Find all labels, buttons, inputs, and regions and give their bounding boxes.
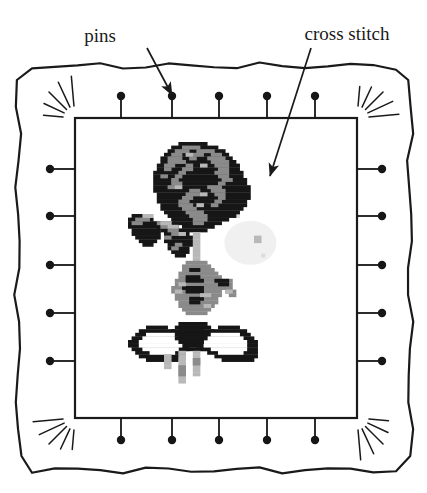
- bow-knot-stitch: [175, 336, 208, 340]
- stem-stitch: [193, 243, 201, 247]
- bow-loop-interior: [139, 344, 183, 348]
- rose-head-stitch: [178, 142, 207, 146]
- bottom-edge-pin-5-head[interactable]: [311, 436, 319, 444]
- rose-highlight-stitch: [175, 174, 183, 178]
- bottom-edge-pin-1-head[interactable]: [117, 436, 125, 444]
- bow-loop-interior: [211, 347, 247, 351]
- left-edge-pin-1-head[interactable]: [46, 165, 54, 173]
- rose-head-stitch: [160, 207, 243, 211]
- rose-highlight-stitch: [214, 164, 229, 168]
- rose-highlight-stitch: [189, 214, 207, 218]
- bow-stitch: [218, 326, 240, 330]
- rose-highlight-stitch: [182, 146, 200, 150]
- bow-loop-interior: [204, 344, 248, 348]
- rose-highlight-stitch: [211, 203, 219, 207]
- rose-head-stitch: [153, 182, 247, 186]
- rose-highlight-stitch: [218, 167, 229, 171]
- leaf-stitch: [135, 236, 161, 240]
- top-edge-pin-1-head[interactable]: [117, 92, 125, 100]
- bow-stitch: [146, 326, 168, 330]
- rose-highlight-stitch: [168, 160, 186, 164]
- bow-loop-interior: [142, 347, 178, 351]
- foliage-dark-stitch: [186, 290, 204, 294]
- bow-knot-stitch: [178, 340, 204, 344]
- bow-loop-interior: [146, 333, 175, 337]
- rose-highlight-stitch: [178, 203, 193, 207]
- rose-head-stitch: [186, 228, 208, 232]
- bow-loop-interior: [142, 336, 178, 340]
- leaf-stitch: [132, 228, 161, 232]
- ribbon-tail-shadow: [178, 365, 186, 369]
- top-edge-pin-2-head[interactable]: [168, 92, 176, 100]
- foliage-dark-stitch: [186, 279, 204, 283]
- rose-highlight-stitch: [186, 164, 194, 168]
- rose-highlight-stitch: [193, 221, 204, 225]
- rose-head-stitch: [157, 200, 247, 204]
- bottom-edge-pin-3-head[interactable]: [215, 436, 223, 444]
- rose-highlight-stitch: [171, 153, 182, 157]
- ribbon-tail-stitch: [164, 354, 172, 358]
- stem-stitch: [193, 254, 201, 258]
- ribbon-tail-stitch: [178, 380, 186, 384]
- leaf-highlight-stitch: [171, 246, 179, 250]
- stem-stitch: [193, 250, 201, 254]
- rose-highlight-stitch: [168, 156, 183, 160]
- right-edge-pin-3-head[interactable]: [378, 261, 386, 269]
- left-edge-pin-3-head[interactable]: [46, 261, 54, 269]
- ribbon-tail-stitch: [178, 376, 186, 380]
- left-edge-pin-4-head[interactable]: [46, 309, 54, 317]
- bow-stitch: [139, 329, 175, 333]
- ribbon-tail-stitch: [164, 358, 172, 362]
- foliage-light-stitch: [200, 293, 211, 297]
- bow-knot-stitch: [178, 329, 204, 333]
- top-edge-pin-5-head[interactable]: [311, 92, 319, 100]
- rose-head-stitch: [182, 225, 215, 229]
- rose-highlight-stitch: [164, 164, 175, 168]
- rose-highlight-stitch: [182, 196, 193, 200]
- leaf-highlight-stitch: [175, 243, 183, 247]
- leaf-stitch: [139, 239, 157, 243]
- ribbon-tail-stitch: [164, 365, 172, 369]
- ribbon-tail-stitch: [193, 369, 201, 373]
- top-edge-pin-3-head[interactable]: [215, 92, 223, 100]
- ribbon-tail-shadow: [178, 372, 186, 376]
- rose-highlight-stitch: [193, 218, 208, 222]
- rose-head-stitch: [153, 178, 247, 182]
- bottom-edge-pin-2-head[interactable]: [168, 436, 176, 444]
- bow-stitch: [175, 347, 215, 351]
- rose-highlight-stitch: [164, 167, 172, 171]
- left-edge-pin-5-head[interactable]: [46, 357, 54, 365]
- foliage-light-stitch: [175, 290, 183, 294]
- ribbon-tail-stitch: [193, 354, 201, 358]
- rose-highlight-stitch: [218, 174, 229, 178]
- foliage-dark-stitch: [186, 275, 201, 279]
- ribbon-tail-stitch: [164, 362, 172, 366]
- rose-light-stitch: [200, 192, 208, 196]
- foliage-light-stitch: [204, 304, 212, 308]
- bow-stitch: [175, 326, 211, 330]
- ghost-smudge-fleck: [261, 254, 265, 258]
- foliage-dark-stitch: [189, 268, 200, 272]
- right-edge-pin-2-head[interactable]: [378, 212, 386, 220]
- top-edge-pin-4-head[interactable]: [263, 92, 271, 100]
- foliage-stitch: [186, 311, 208, 315]
- stem-stitch: [193, 257, 201, 261]
- rose-highlight-stitch: [211, 160, 229, 164]
- ribbon-tail-stitch: [193, 372, 201, 376]
- bow-loop-interior: [218, 351, 244, 355]
- bottom-edge-pin-4-head[interactable]: [263, 436, 271, 444]
- bow-loop-interior: [207, 336, 243, 340]
- right-edge-pin-4-head[interactable]: [378, 309, 386, 317]
- rose-highlight-stitch: [222, 178, 233, 182]
- right-edge-pin-1-head[interactable]: [378, 165, 386, 173]
- rose-highlight-stitch: [214, 200, 222, 204]
- ribbon-tail-shadow: [193, 358, 201, 362]
- stem-stitch: [193, 239, 201, 243]
- right-edge-pin-5-head[interactable]: [378, 357, 386, 365]
- foliage-light-stitch: [225, 290, 233, 294]
- bow-stitch: [139, 354, 183, 358]
- left-edge-pin-2-head[interactable]: [46, 212, 54, 220]
- ribbon-tail-stitch: [193, 365, 201, 369]
- leaf-highlight-stitch: [164, 236, 172, 240]
- rose-highlight-stitch: [196, 149, 214, 153]
